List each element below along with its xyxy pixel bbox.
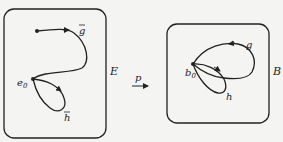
covering-space-diagram: e0 g h E p b0 g h B: [0, 0, 283, 142]
b0-basepoint: [191, 62, 195, 66]
g-tilde-start-point: [35, 29, 39, 33]
e0-label: e0: [17, 77, 28, 90]
h-tilde-arrow-icon: [56, 87, 61, 91]
e0-basepoint: [31, 77, 35, 81]
base-space-frame: [167, 24, 269, 123]
base-space-label: B: [272, 65, 281, 78]
map-p-label: p: [135, 72, 142, 83]
g-tilde-label: g: [79, 25, 85, 36]
total-space-label: E: [109, 65, 118, 78]
h-tilde-path: [33, 79, 65, 111]
g-tilde-path: [33, 29, 87, 79]
total-space-frame: [4, 9, 106, 138]
g-label: g: [246, 39, 252, 50]
h-label: h: [226, 91, 232, 102]
h-tilde-label: h: [64, 112, 70, 123]
